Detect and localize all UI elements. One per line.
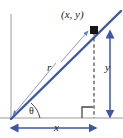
angle-theta-label: θ — [29, 106, 34, 116]
vertical-leg-label: y — [105, 62, 110, 73]
point-marker-dot — [90, 26, 98, 34]
hypotenuse-label: r — [47, 62, 51, 73]
point-coordinates-label: (x, y) — [61, 9, 84, 20]
horizontal-leg-label: x — [54, 122, 59, 133]
right-angle-marker — [82, 107, 93, 118]
right-triangle-trigonometry-figure: (x, y) r y x θ — [0, 0, 123, 138]
